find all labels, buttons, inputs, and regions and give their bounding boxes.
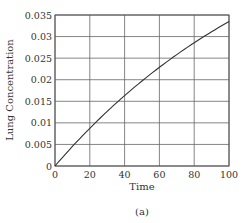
x-tick-label: 0 <box>52 169 58 180</box>
x-axis-label: Time <box>129 181 154 192</box>
x-tick-label: 60 <box>153 169 165 180</box>
y-tick-label: 0.02 <box>31 74 52 85</box>
y-tick-label: 0.025 <box>25 53 52 64</box>
line-chart: 00.0050.010.0150.020.0250.030.035 020406… <box>0 0 244 223</box>
x-tick-label: 20 <box>84 169 96 180</box>
figure-caption: (a) <box>135 206 149 217</box>
x-tick-label: 40 <box>119 169 131 180</box>
y-tick-label: 0.035 <box>25 10 52 21</box>
x-axis-ticks: 020406080100 <box>52 169 238 180</box>
y-tick-label: 0.015 <box>25 96 52 107</box>
y-axis-label: Lung Concentration <box>4 39 15 141</box>
x-tick-label: 100 <box>220 169 238 180</box>
y-tick-label: 0.005 <box>25 139 52 150</box>
y-tick-label: 0.01 <box>31 117 52 128</box>
y-axis-ticks: 00.0050.010.0150.020.0250.030.035 <box>25 10 52 172</box>
y-tick-label: 0.03 <box>31 31 52 42</box>
x-tick-label: 80 <box>188 169 200 180</box>
